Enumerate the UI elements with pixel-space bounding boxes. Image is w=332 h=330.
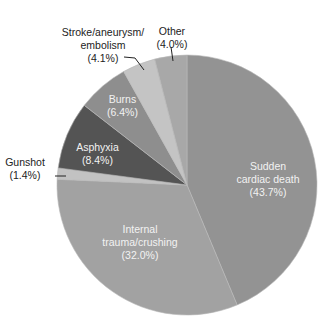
- label-sudden-cardiac-death: Sudden cardiac death (43.7%): [218, 160, 318, 199]
- label-burns: Burns (6.4%): [100, 93, 145, 119]
- label-asphyxia: Asphyxia (8.4%): [70, 141, 125, 167]
- label-gunshot: Gunshot (1.4%): [0, 156, 50, 182]
- label-internal-trauma: Internal trauma/crushing (32.0%): [90, 223, 190, 262]
- label-other: Other (4.0%): [152, 25, 192, 51]
- label-stroke-aneurysm-embolism: Stroke/aneurysm/ embolism (4.1%): [58, 26, 148, 65]
